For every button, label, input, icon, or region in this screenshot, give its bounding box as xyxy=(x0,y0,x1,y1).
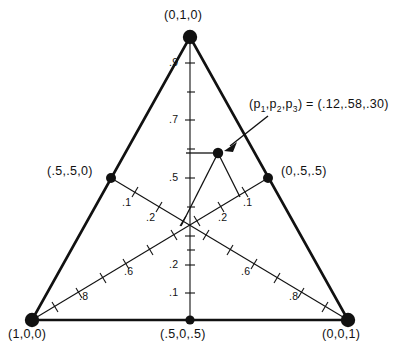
tick-label-left-ascending-8: .8 xyxy=(79,290,88,302)
tick-label-vertical-9: .9 xyxy=(169,56,178,68)
tick-label-right-ascending-8: .8 xyxy=(289,290,298,302)
tick-label-left-descending-2: .2 xyxy=(146,211,155,223)
tick-label-right-descending-1: .1 xyxy=(243,196,252,208)
annotation-arrow xyxy=(224,116,268,152)
midpoint-label-bottom: (.5,0,.5) xyxy=(160,327,206,341)
midpoint-label-left: (.5,.5,0) xyxy=(47,164,93,178)
right-ascending-median-axis xyxy=(111,178,348,320)
vertex-label-bottom-right: (0,0,1) xyxy=(322,327,360,341)
vertex-label-bottom-left: (1,0,0) xyxy=(8,327,46,341)
vertex-label-top: (0,1,0) xyxy=(164,8,202,22)
tick-label-left-ascending-6: .6 xyxy=(124,265,133,277)
tick-label-right-ascending-6: .6 xyxy=(241,265,250,277)
point-annotation-label: (p1,p2,p3) = (.12,.58,.30) xyxy=(249,97,389,114)
simplex-plot-svg xyxy=(0,0,419,360)
p-left-reference xyxy=(181,153,218,226)
annotation-suffix: ) = (.12,.58,.30) xyxy=(298,97,389,111)
marker-midpoint-right xyxy=(263,173,273,183)
marker-vertex-bottom-right xyxy=(341,313,355,327)
tick-label-vertical-5: .5 xyxy=(169,171,178,183)
marker-point-p xyxy=(213,148,223,158)
annotation-mid-1: ,p xyxy=(266,97,277,111)
right-ascending-axis-ticks xyxy=(132,187,328,312)
tick-label-left-descending-1: .1 xyxy=(122,196,131,208)
marker-midpoint-bottom xyxy=(185,315,194,324)
annotation-mid-2: ,p xyxy=(282,97,293,111)
tick-label-vertical-1: .1 xyxy=(169,286,178,298)
marker-vertex-top xyxy=(183,30,197,44)
tick-label-vertical-2: .2 xyxy=(169,258,178,270)
tick-label-right-descending-2: .2 xyxy=(218,211,227,223)
marker-midpoint-left xyxy=(106,173,116,183)
p-right-reference xyxy=(218,153,240,197)
marker-vertex-bottom-left xyxy=(25,313,39,327)
midpoint-label-right: (0,.5,.5) xyxy=(281,164,327,178)
annotation-prefix: (p xyxy=(249,97,261,111)
ternary-diagram-canvas: (0,1,0) (1,0,0) (0,0,1) (.5,.5,0) (0,.5,… xyxy=(0,0,419,360)
tick-label-vertical-7: .7 xyxy=(169,113,178,125)
